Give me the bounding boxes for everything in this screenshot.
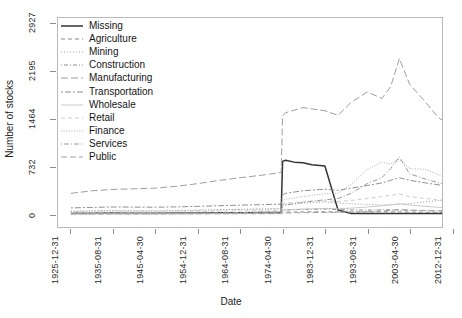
legend-line-swatch [61, 47, 83, 57]
x-tick-label: 1993-08-31 [348, 236, 388, 284]
x-tick-label: 2003-04-30 [390, 236, 430, 284]
x-tick-mark [368, 229, 369, 234]
legend-item: Mining [61, 45, 153, 58]
y-axis-title: Number of stocks [4, 80, 15, 158]
legend-item: Missing [61, 19, 153, 32]
legend-label: Public [89, 152, 116, 162]
y-tick-mark [50, 119, 56, 120]
legend-label: Missing [89, 21, 123, 31]
x-tick-mark [453, 229, 454, 234]
legend: MissingAgricultureMiningConstructionManu… [61, 19, 153, 164]
legend-line-swatch [61, 87, 83, 97]
legend-line-swatch [61, 113, 83, 123]
legend-item: Agriculture [61, 32, 153, 45]
legend-label: Manufacturing [89, 73, 152, 83]
legend-item: Finance [61, 125, 153, 138]
x-tick-mark [113, 229, 114, 234]
legend-label: Mining [89, 47, 118, 57]
legend-line-swatch [61, 139, 83, 149]
x-tick-mark [198, 229, 199, 234]
y-tick-mark [50, 71, 56, 72]
legend-label: Services [89, 139, 127, 149]
x-tick-label: 1935-08-31 [93, 236, 133, 284]
legend-item: Retail [61, 111, 153, 124]
y-tick-mark [50, 215, 56, 216]
x-tick-mark [283, 229, 284, 234]
x-tick-label: 2012-12-31 [433, 236, 462, 284]
legend-label: Retail [89, 113, 115, 123]
y-tick-mark [50, 167, 56, 168]
x-tick-label: 1945-04-30 [135, 236, 175, 284]
x-tick-mark [325, 229, 326, 234]
y-tick-label: 2195 [26, 55, 38, 87]
legend-line-swatch [61, 60, 83, 70]
legend-line-swatch [61, 73, 83, 83]
legend-item: Wholesale [61, 98, 153, 111]
y-tick-label: 0 [26, 199, 38, 231]
legend-label: Finance [89, 126, 125, 136]
series-line [71, 178, 442, 208]
legend-line-swatch [61, 34, 83, 44]
y-tick-label: 1464 [26, 103, 38, 135]
legend-label: Construction [89, 60, 145, 70]
x-tick-label: 1954-12-31 [178, 236, 218, 284]
legend-item: Services [61, 138, 153, 151]
legend-item: Public [61, 151, 153, 164]
y-tick-label: 732 [26, 151, 38, 183]
legend-item: Construction [61, 59, 153, 72]
y-tick-label: 2927 [26, 7, 38, 39]
x-tick-label: 1964-08-31 [220, 236, 260, 284]
legend-label: Agriculture [89, 34, 137, 44]
legend-line-swatch [61, 21, 83, 31]
y-tick-mark [50, 23, 56, 24]
legend-item: Manufacturing [61, 72, 153, 85]
legend-label: Transportation [89, 87, 153, 97]
x-tick-mark [240, 229, 241, 234]
x-tick-mark [155, 229, 156, 234]
series-line [71, 159, 442, 211]
legend-line-swatch [61, 100, 83, 110]
legend-label: Wholesale [89, 100, 136, 110]
x-tick-label: 1983-12-31 [305, 236, 345, 284]
legend-line-swatch [61, 126, 83, 136]
chart-root: Number of stocks 0732146421952927 1925-1… [0, 0, 462, 318]
x-tick-label: 1925-12-31 [50, 236, 90, 284]
legend-item: Transportation [61, 85, 153, 98]
x-axis-title: Date [0, 296, 462, 307]
x-tick-mark [70, 229, 71, 234]
legend-line-swatch [61, 152, 83, 162]
x-tick-mark [410, 229, 411, 234]
x-tick-label: 1974-04-30 [263, 236, 303, 284]
